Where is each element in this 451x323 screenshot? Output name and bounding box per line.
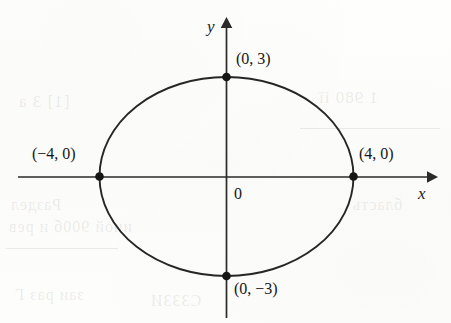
vertex-dot-right <box>349 172 358 181</box>
point-label-right: (4, 0) <box>359 146 394 162</box>
point-label-left: (−4, 0) <box>32 146 76 162</box>
vertex-dot-bottom <box>222 272 231 281</box>
y-axis-label: y <box>207 18 215 35</box>
ellipse-figure: [1] 3 а 1 980 ії Раздел иной 900б и рев … <box>0 0 451 323</box>
y-axis-arrowhead-icon <box>221 17 233 28</box>
point-label-top: (0, 3) <box>236 51 271 67</box>
vertex-dot-top <box>222 73 231 82</box>
point-label-bottom: (0, −3) <box>234 281 278 297</box>
x-axis-label: x <box>418 185 426 202</box>
origin-label: 0 <box>234 186 242 202</box>
vertex-dot-left <box>95 172 104 181</box>
x-axis-arrowhead-icon <box>427 171 438 183</box>
